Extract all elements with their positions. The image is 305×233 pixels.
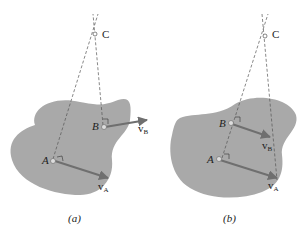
diagram-canvas: C A B vA vB (a) C B A vB vA (b) [0,0,305,233]
label-vA-a: vA [98,180,109,194]
point-c-a [93,32,97,36]
instant-center-diagram: C A B vA vB (a) C B A vB vA (b) [0,0,305,233]
figure-b: C B A vB vA (b) [170,14,296,225]
point-a-a [51,159,56,164]
label-b-a: B [92,120,99,132]
caption-b: (b) [223,212,236,225]
point-b-a [102,125,107,130]
point-c-b [263,34,267,38]
label-c-b: C [272,28,279,40]
label-a-a: A [41,154,49,166]
figure-a: C A B vA vB (a) [11,14,149,225]
rigid-body-b [170,98,296,198]
caption-a: (a) [68,212,81,225]
label-a-b: A [206,153,214,165]
label-b-b: B [219,117,226,129]
point-a-b [217,157,222,162]
label-c-a: C [102,28,109,40]
point-b-b [229,121,234,126]
rigid-body-a [11,99,131,195]
label-vB-a: vB [138,122,149,136]
